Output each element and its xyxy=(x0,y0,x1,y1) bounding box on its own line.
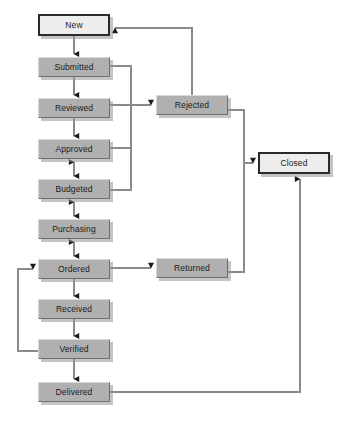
node-rejected[interactable]: Rejected xyxy=(156,95,228,115)
node-label-received: Received xyxy=(56,304,92,314)
node-submitted[interactable]: Submitted xyxy=(38,57,110,77)
node-label-closed: Closed xyxy=(280,158,307,168)
node-delivered[interactable]: Delivered xyxy=(38,382,110,402)
node-budgeted[interactable]: Budgeted xyxy=(38,179,110,199)
node-received[interactable]: Received xyxy=(38,299,110,319)
node-label-purchasing: Purchasing xyxy=(52,224,96,234)
workflow-diagram: New Submitted Reviewed Approved Budgeted… xyxy=(0,0,353,423)
node-new[interactable]: New xyxy=(38,14,110,36)
node-reviewed[interactable]: Reviewed xyxy=(38,98,110,118)
node-ordered[interactable]: Ordered xyxy=(38,259,110,279)
node-label-submitted: Submitted xyxy=(54,62,93,72)
node-label-new: New xyxy=(65,20,82,30)
node-label-budgeted: Budgeted xyxy=(55,184,92,194)
node-label-returned: Returned xyxy=(174,263,210,273)
node-approved[interactable]: Approved xyxy=(38,139,110,159)
node-returned[interactable]: Returned xyxy=(156,258,228,278)
edge-verified-to-ordered xyxy=(18,269,38,351)
node-closed[interactable]: Closed xyxy=(258,152,330,174)
node-label-reviewed: Reviewed xyxy=(55,103,93,113)
node-verified[interactable]: Verified xyxy=(38,339,110,359)
node-label-approved: Approved xyxy=(55,144,92,154)
edge-approved-to-rejected xyxy=(110,105,131,148)
edge-rejected-to-closed xyxy=(228,110,244,163)
node-label-rejected: Rejected xyxy=(175,100,209,110)
edge-delivered-to-closed xyxy=(110,179,300,392)
edge-rejected-to-new xyxy=(115,28,192,95)
node-label-verified: Verified xyxy=(59,344,88,354)
node-purchasing[interactable]: Purchasing xyxy=(38,219,110,239)
node-label-ordered: Ordered xyxy=(58,264,90,274)
edge-submitted-to-rejected xyxy=(110,66,131,105)
edge-returned-to-closed xyxy=(228,163,244,272)
node-label-delivered: Delivered xyxy=(56,387,93,397)
